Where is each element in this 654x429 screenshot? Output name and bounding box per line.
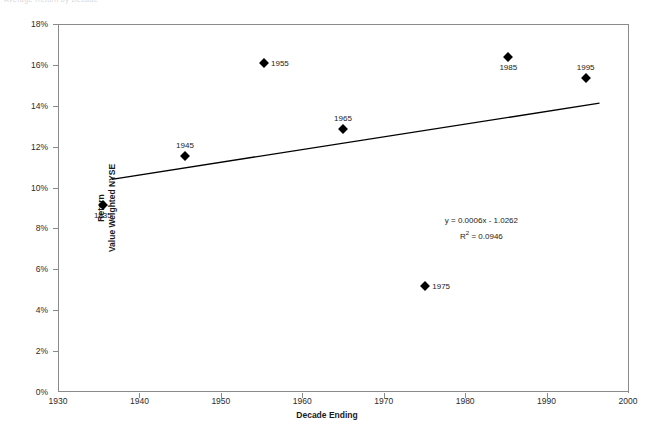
data-point-label: 1965 (334, 114, 352, 123)
y-tick-mark (53, 188, 58, 189)
y-tick-mark (53, 228, 58, 229)
scatter-chart: Average Return by Decade Return Value We… (0, 0, 654, 429)
y-axis-title: Return Value Weighted NYSE (96, 118, 118, 298)
data-point-label: 1975 (432, 281, 450, 290)
y-tick-mark (53, 24, 58, 25)
data-point-label: 1945 (176, 141, 194, 150)
regression-annotation: y = 0.0006x - 1.0262 R2 = 0.0946 (401, 215, 561, 243)
r-squared: R2 = 0.0946 (401, 227, 561, 243)
x-tick-mark (384, 393, 385, 398)
y-axis-title-line2: Value Weighted NYSE (107, 118, 118, 298)
plot-area: Return Value Weighted NYSE (58, 24, 628, 392)
y-tick-label: 10% (14, 183, 48, 193)
y-tick-mark (53, 351, 58, 352)
r-squared-value: = 0.0946 (469, 232, 503, 241)
y-tick-mark (53, 106, 58, 107)
y-tick-label: 6% (14, 264, 48, 274)
y-tick-mark (53, 269, 58, 270)
x-axis-title: Decade Ending (0, 410, 654, 420)
x-tick-mark (302, 393, 303, 398)
y-tick-label: 14% (14, 101, 48, 111)
x-tick-mark (139, 393, 140, 398)
data-point-label: 1955 (271, 58, 289, 67)
data-point-label: 1985 (499, 63, 517, 72)
y-tick-label: 8% (14, 223, 48, 233)
x-tick-label: 1930 (38, 396, 78, 406)
y-tick-mark (53, 65, 58, 66)
cropped-title-sliver: Average Return by Decade (4, 0, 98, 3)
y-tick-label: 12% (14, 142, 48, 152)
x-tick-mark (465, 393, 466, 398)
data-point-label: 1995 (577, 63, 595, 72)
x-tick-mark (547, 393, 548, 398)
regression-equation: y = 0.0006x - 1.0262 (401, 215, 561, 227)
y-tick-label: 4% (14, 305, 48, 315)
x-tick-mark (221, 393, 222, 398)
x-tick-label: 2000 (608, 396, 648, 406)
y-tick-mark (53, 147, 58, 148)
y-tick-label: 16% (14, 60, 48, 70)
data-point-label: 1935 (94, 211, 112, 220)
plot-right-border (628, 24, 629, 393)
y-tick-label: 2% (14, 346, 48, 356)
y-tick-label: 18% (14, 19, 48, 29)
y-tick-mark (53, 310, 58, 311)
